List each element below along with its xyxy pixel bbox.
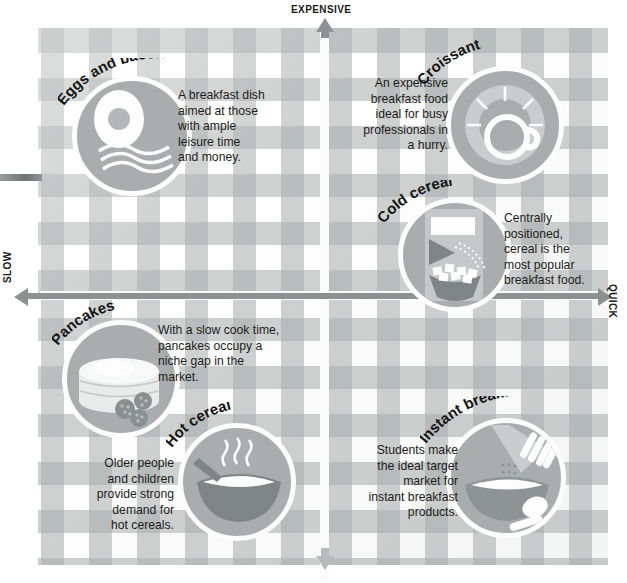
caption-line: Older people (62, 456, 174, 472)
axis-label-slow: SLOW (2, 251, 13, 283)
up-arrow-icon (316, 18, 334, 32)
fried-egg-and-bacon-icon (77, 81, 187, 191)
caption-line: provide strong (62, 487, 174, 503)
caption-line: instant breakfast (340, 490, 458, 506)
item-disc-eggs-and-bacon[interactable] (72, 76, 192, 196)
caption-line: the ideal target (340, 459, 458, 475)
down-arrow-icon (316, 556, 334, 570)
caption-line: demand for (62, 503, 174, 519)
caption-line: aimed at those (178, 104, 288, 120)
item-disc-instant-breakfast[interactable] (446, 418, 566, 538)
item-caption-pancakes: With a slow cook time, pancakes occupy a… (158, 323, 308, 385)
left-arrow-icon (14, 288, 28, 306)
caption-line: market. (158, 370, 308, 386)
caption-line: With a slow cook time, (158, 323, 308, 339)
item-disc-croissant[interactable] (446, 66, 564, 184)
cereal-box-pouring-into-bowl-icon (403, 203, 507, 307)
item-caption-eggs-and-bacon: A breakfast dish aimed at those with amp… (178, 88, 288, 166)
caption-line: market for (340, 474, 458, 490)
caption-line: a hurry. (338, 138, 448, 154)
item-disc-hot-cereal[interactable] (178, 423, 296, 541)
caption-line: cereal is the (504, 242, 616, 258)
caption-line: products. (340, 505, 458, 521)
left-axis-stem (26, 293, 326, 299)
caption-line: positioned, (504, 227, 616, 243)
caption-line: An expensive (338, 76, 448, 92)
item-disc-cold-cereal[interactable] (398, 198, 512, 312)
caption-line: Students make (340, 443, 458, 459)
axis-label-expensive: EXPENSIVE (291, 4, 351, 15)
caption-line: leisure time (178, 135, 288, 151)
croissant-and-coffee-cup-icon (451, 71, 559, 179)
caption-line: professionals in (338, 123, 448, 139)
caption-line: breakfast food (338, 92, 448, 108)
caption-line: most popular (504, 258, 616, 274)
caption-line: niche gap in the (158, 354, 308, 370)
hand-pouring-sachet-into-bowl-icon (451, 423, 561, 533)
item-caption-hot-cereal: Older people and children provide strong… (62, 456, 174, 534)
caption-line: pancakes occupy a (158, 339, 308, 355)
caption-line: ideal for busy (338, 107, 448, 123)
vertical-axis-line (320, 30, 329, 582)
item-caption-cold-cereal: Centrally positioned, cereal is the most… (504, 211, 616, 289)
caption-line: A breakfast dish (178, 88, 288, 104)
caption-line: breakfast food. (504, 273, 616, 289)
axis-label-quick: QUICK (607, 284, 618, 318)
matrix-diagram: EXPENSIVE SLOW QUICK Eggs and bacon A br… (0, 0, 627, 583)
item-caption-instant-breakfast: Students make the ideal target market fo… (340, 443, 458, 521)
caption-line: and money. (178, 150, 288, 166)
caption-line: with ample (178, 119, 288, 135)
left-edge-marker-bar (0, 174, 42, 181)
steaming-bowl-with-spoon-icon (183, 428, 291, 536)
caption-line: hot cereals. (62, 518, 174, 534)
item-caption-croissant: An expensive breakfast food ideal for bu… (338, 76, 448, 154)
caption-line: and children (62, 472, 174, 488)
caption-line: Centrally (504, 211, 616, 227)
